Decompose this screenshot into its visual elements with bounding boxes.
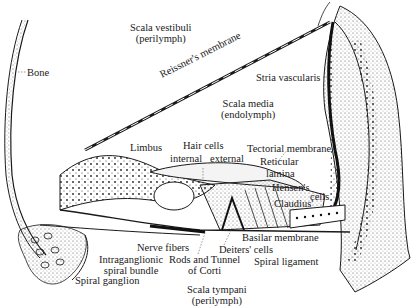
label-basilar-membrane: Basilar membrane [242,232,319,243]
rods-tunnel-line-2: of Corti [169,265,240,276]
label-claudius: Claudius' [274,198,313,209]
label-scala-tympani: Scala tympani (perilymph) [187,284,247,306]
lateral-wall [324,6,410,292]
label-bone: Bone [27,67,49,78]
label-hair-cells-internal: internal [170,153,202,164]
label-hair-cells-external: external [210,153,244,164]
label-spiral-ganglion: Spiral ganglion [75,275,139,286]
bone-wall [5,20,46,258]
scala-tympani-fluid: (perilymph) [187,295,247,306]
label-nerve-fibers: Nerve fibers [137,242,189,253]
label-intraganglionic-spiral-bundle: Intraganglionic spiral bundle [99,254,163,276]
rods-tunnel-line-1: Rods and Tunnel [169,254,240,265]
label-tectorial-membrane: Tectorial membrane [247,143,331,154]
scala-media-name: Scala media [221,98,275,109]
intraganglionic-line-1: Intraganglionic [99,254,163,265]
scala-vestibuli-fluid: (perilymph) [130,33,192,44]
label-lamina: lamina [266,168,295,179]
label-rods-and-tunnel-of-corti: Rods and Tunnel of Corti [169,254,240,276]
scala-tympani-name: Scala tympani [187,284,247,295]
label-hair-cells: Hair cells [183,140,224,151]
scala-vestibuli-name: Scala vestibuli [130,22,192,33]
label-hensens: Hensen's [272,182,309,193]
label-spiral-ligament: Spiral ligament [254,256,318,267]
label-stria-vascularis: Stria vascularis [256,72,320,83]
cochlea-diagram: Scala vestibuli (perilymph) Bone Reissne… [0,0,418,308]
label-reticular: Reticular [260,156,298,167]
label-scala-vestibuli: Scala vestibuli (perilymph) [130,22,192,44]
label-limbus: Limbus [130,142,162,153]
scala-media-fluid: (endolymph) [221,109,275,120]
label-scala-media: Scala media (endolymph) [221,98,275,120]
